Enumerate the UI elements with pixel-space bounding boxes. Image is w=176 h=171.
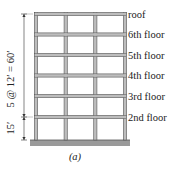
dimension-lower-label: 15′ bbox=[5, 122, 16, 135]
floor-label: 3rd floor bbox=[128, 91, 166, 102]
dimension-arrow bbox=[22, 114, 25, 117]
joint bbox=[35, 116, 37, 118]
joint bbox=[94, 116, 96, 118]
figure-caption: (a) bbox=[69, 151, 82, 163]
beam-0 bbox=[34, 12, 126, 15]
joint bbox=[124, 54, 126, 56]
dimension-arrow bbox=[22, 117, 25, 120]
joint bbox=[124, 116, 126, 118]
beam-4 bbox=[34, 94, 126, 97]
ground-base bbox=[30, 140, 130, 146]
joint bbox=[64, 95, 66, 97]
joint bbox=[64, 54, 66, 56]
floor-labels: roof6th floor5th floor4th floor3rd floor… bbox=[128, 9, 167, 123]
joint bbox=[64, 13, 66, 15]
floor-label: 4th floor bbox=[128, 70, 165, 81]
joint bbox=[124, 95, 126, 97]
floor-label: roof bbox=[128, 9, 146, 20]
beam-3 bbox=[34, 74, 126, 77]
joint bbox=[35, 74, 37, 76]
beam-5 bbox=[34, 115, 126, 118]
joint bbox=[94, 95, 96, 97]
dimension-upper-label: 5 @ 12′ = 60′ bbox=[5, 51, 16, 108]
joint bbox=[35, 95, 37, 97]
joint bbox=[94, 54, 96, 56]
beam-1 bbox=[34, 33, 126, 36]
dimension-lines bbox=[21, 14, 33, 140]
floor-label: 5th floor bbox=[128, 50, 165, 61]
dimension-arrow bbox=[22, 137, 25, 140]
dimension-arrow bbox=[22, 14, 25, 17]
ground-hatch bbox=[30, 140, 130, 146]
floor-label: 6th floor bbox=[128, 29, 165, 40]
joint bbox=[64, 74, 66, 76]
joint bbox=[64, 116, 66, 118]
joint bbox=[35, 54, 37, 56]
frame bbox=[34, 12, 126, 140]
joint bbox=[35, 33, 37, 35]
joint bbox=[64, 33, 66, 35]
beam-2 bbox=[34, 53, 126, 56]
joint bbox=[35, 13, 37, 15]
building-frame-diagram: roof6th floor5th floor4th floor3rd floor… bbox=[0, 0, 176, 171]
joint bbox=[94, 13, 96, 15]
joint bbox=[94, 74, 96, 76]
joint bbox=[124, 74, 126, 76]
joint bbox=[94, 33, 96, 35]
joint bbox=[124, 33, 126, 35]
joint bbox=[124, 13, 126, 15]
floor-label: 2nd floor bbox=[128, 112, 167, 123]
